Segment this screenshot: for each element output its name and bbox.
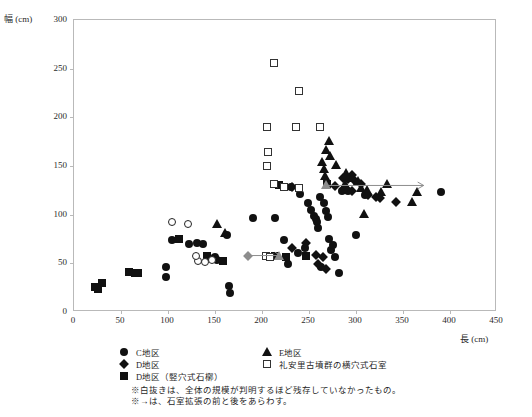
x-tick-label: 450 [481,315,511,325]
data-point-triangle [359,209,369,218]
data-point-circle [284,260,292,268]
data-point-gray [321,181,331,190]
data-point-square-open [270,180,278,188]
data-point-triangle [325,151,335,160]
data-point-circle-open [168,218,176,226]
diamond-marker-icon [118,358,132,369]
data-point-circle [199,240,207,248]
data-point-square [134,269,142,277]
x-tick-label: 200 [246,315,276,325]
legend-swatch-shape [263,360,271,368]
legend-swatch-shape [119,359,129,369]
x-tick-label: 250 [293,315,323,325]
y-axis-title: 幅 (cm) [4,12,32,25]
data-point-triangle [320,171,330,180]
legend-item[interactable]: E地区 [261,346,387,357]
x-tick-mark [450,310,451,314]
triangle-marker-icon [261,346,275,357]
data-point-triangle [324,136,334,145]
y-tick-label: 250 [37,63,67,73]
data-point-circle [335,269,343,277]
data-point-circle [437,188,445,196]
data-point-triangle [362,185,372,194]
legend-item[interactable]: D地区（竪穴式石槨） [118,370,223,381]
data-point-square-open [270,59,278,67]
legend-item-label: D地区 [136,358,160,370]
data-point-circle [331,253,339,261]
legend-swatch-shape [120,348,128,356]
legend-column-1: C地区D地区D地区（竪穴式石槨） [118,346,223,382]
data-point-square [175,235,183,243]
data-point-square-open [316,123,324,131]
legend-item-label: 礼安里古墳群の横穴式石室 [279,358,387,370]
data-point-square [98,279,106,287]
data-point-gray [274,251,284,260]
x-tick-label: 300 [340,315,370,325]
x-tick-label: 50 [105,315,135,325]
data-point-triangle [220,228,230,237]
data-point-circle [280,236,288,244]
data-point-circle [324,213,332,221]
x-tick-mark [403,310,404,314]
data-point-circle-open [208,256,216,264]
x-tick-mark [215,310,216,314]
data-point-circle-open [184,220,192,228]
data-point-triangle [382,180,392,189]
x-tick-label: 400 [434,315,464,325]
y-tick-label: 200 [37,111,67,121]
data-point-triangle [340,180,350,189]
legend-item[interactable]: D地区 [118,358,223,369]
y-tick-label: 300 [37,14,67,24]
data-point-square-open [295,184,303,192]
x-tick-mark [309,310,310,314]
plot-area [73,19,496,311]
data-point-circle [352,231,360,239]
legend-item-label: D地区（竪穴式石槨） [136,370,223,382]
data-point-triangle [376,187,386,196]
chart-root: 幅 (cm) 長 (cm) 050100150200250300 0501001… [0,0,532,417]
legend-item-label: C地区 [136,346,160,358]
plot-inner [74,20,495,310]
data-point-circle [162,263,170,271]
data-point-square-open [292,123,300,131]
data-point-circle-open [192,252,200,260]
x-tick-mark [168,310,169,314]
y-tick-mark [70,69,74,70]
data-point-gray [243,251,253,261]
x-tick-label: 0 [58,315,88,325]
legend-item[interactable]: C地区 [118,346,223,357]
data-point-triangle [212,219,222,228]
data-point-square-open [263,162,271,170]
x-tick-label: 100 [152,315,182,325]
data-point-circle [329,241,337,249]
data-point-square [302,252,310,260]
y-tick-mark [70,263,74,264]
square-marker-icon [118,370,132,381]
legend-swatch-shape [120,372,128,380]
data-point-triangle [412,187,422,196]
x-tick-mark [262,310,263,314]
x-tick-label: 350 [387,315,417,325]
data-point-square-open [280,183,288,191]
data-point-square-open [295,87,303,95]
legend-item-label: E地区 [279,346,302,358]
y-tick-mark [70,166,74,167]
square-open-marker-icon [261,358,275,369]
legend-item[interactable]: 礼安里古墳群の横穴式石室 [261,358,387,369]
footnote-line: ※→は、石室拡張の前と後をあらわす。 [131,396,401,407]
data-point-circle [226,289,234,297]
data-point-diamond [391,197,401,207]
y-tick-label: 150 [37,160,67,170]
legend-column-2: E地区礼安里古墳群の横穴式石室 [261,346,387,370]
y-tick-mark [70,215,74,216]
x-axis-title: 長 (cm) [460,332,488,345]
data-point-square-open [266,253,274,261]
data-point-circle [271,214,279,222]
data-point-circle [185,240,193,248]
y-tick-label: 100 [37,209,67,219]
legend-swatch-shape [262,347,272,356]
footnotes: ※白抜きは、全体の規模が判明するほど残存していなかったもの。※→は、石室拡張の前… [131,385,401,407]
circle-marker-icon [118,346,132,357]
data-point-circle [314,224,322,232]
data-point-square-open [264,148,272,156]
